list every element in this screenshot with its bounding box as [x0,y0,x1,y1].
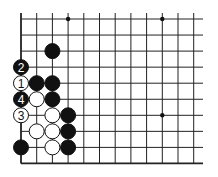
white-stone [45,124,60,139]
white-stone [29,92,44,107]
move-number: 2 [18,61,25,75]
black-stone [29,76,44,91]
black-stone [45,76,60,91]
black-stone [45,92,60,107]
star-point [160,17,164,21]
white-stone [45,108,60,123]
black-stone [61,140,76,155]
white-stone [45,140,60,155]
black-stone [45,44,60,59]
move-number: 4 [18,93,25,107]
move-number: 3 [18,109,25,123]
star-point [66,17,70,21]
black-stone [14,140,29,155]
black-stone [61,124,76,139]
white-stone [29,124,44,139]
black-stone [61,108,76,123]
go-board: 2143 [0,0,218,177]
star-point [160,113,164,117]
move-number: 1 [18,77,25,91]
